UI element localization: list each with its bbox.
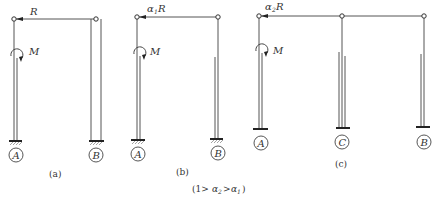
column-label-a: A xyxy=(12,150,20,161)
moment-label: M xyxy=(149,46,161,57)
moment-label: M xyxy=(28,46,40,57)
moment-arrow-icon xyxy=(19,56,23,62)
force-arrow-icon xyxy=(261,14,268,18)
force-arrow-icon xyxy=(139,15,146,19)
panel-a: R M A B (a) xyxy=(9,6,104,179)
moment-arrow-icon xyxy=(264,51,268,57)
hinge-middle xyxy=(340,14,344,18)
panel-caption-c: (c) xyxy=(335,159,347,169)
ground-hatch-a xyxy=(132,141,144,144)
footnote: (1> α 2 > α 1 ) xyxy=(192,184,246,195)
moment-arrow-icon xyxy=(142,54,146,60)
force-prefix: α xyxy=(147,3,154,14)
footnote-alpha1-sub: 1 xyxy=(237,188,241,195)
hinge-left xyxy=(135,15,139,19)
footnote-open: (1> xyxy=(192,184,209,194)
force-label: R xyxy=(275,1,284,12)
footnote-close: ) xyxy=(242,184,246,194)
bent-frame-diagram: R M A B (a) α 1 R xyxy=(0,0,441,197)
footnote-gt: > xyxy=(223,184,231,194)
column-label-b: B xyxy=(214,148,222,159)
panel-caption-b: (b) xyxy=(176,167,189,177)
ground-hatch-b xyxy=(90,142,102,145)
panel-caption-a: (a) xyxy=(49,169,61,179)
force-arrow-icon xyxy=(16,17,23,21)
footnote-alpha2-sub: 2 xyxy=(217,188,222,195)
hinge-left xyxy=(12,17,16,21)
column-label-c: C xyxy=(339,137,347,148)
hinge-right xyxy=(422,14,426,18)
hinge-right xyxy=(94,17,98,21)
panel-c: α 2 R M A C B (c) xyxy=(253,1,431,169)
ground-hatch-a xyxy=(10,142,22,145)
force-prefix: α xyxy=(265,1,272,12)
ground-hatch-b xyxy=(211,140,223,143)
hinge-left xyxy=(257,14,261,18)
column-label-a: A xyxy=(134,149,142,160)
column-label-b: B xyxy=(92,150,100,161)
panel-b: α 1 R M A B (b) xyxy=(131,3,225,177)
force-label: R xyxy=(157,3,166,14)
hinge-right xyxy=(216,15,220,19)
force-label: R xyxy=(29,6,38,17)
moment-label: M xyxy=(272,45,284,56)
column-label-a: A xyxy=(257,138,265,149)
column-label-b: B xyxy=(420,137,428,148)
